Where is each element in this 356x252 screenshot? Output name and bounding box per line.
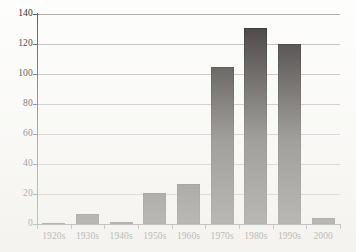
y-tick-label-20: 20 (3, 189, 33, 199)
y-tick-mark-80 (33, 104, 37, 105)
bar-slot (239, 14, 273, 224)
x-tick-mark (306, 225, 307, 229)
x-tick-mark (71, 225, 72, 229)
y-tick-label-80: 80 (3, 99, 33, 109)
x-tick-label-1920s: 1920s (42, 231, 65, 242)
x-axis-line (37, 224, 341, 225)
x-tick-label-1950s: 1950s (143, 231, 166, 242)
y-tick-mark-60 (33, 134, 37, 135)
bar-slot (306, 14, 340, 224)
bar-1920s[interactable] (42, 223, 65, 225)
x-tick-mark (205, 225, 206, 229)
bar-slot (104, 14, 138, 224)
y-tick-mark-20 (33, 194, 37, 195)
y-tick-mark-140 (33, 14, 37, 15)
x-tick-mark (239, 225, 240, 229)
x-tick-label-1960s: 1960s (177, 231, 200, 242)
y-tick-mark-0 (33, 224, 37, 225)
y-tick-label-40: 40 (3, 159, 33, 169)
bar-1960s[interactable] (177, 184, 200, 224)
bar-slot (172, 14, 206, 224)
bar-1950s[interactable] (143, 193, 166, 225)
x-tick-mark (172, 225, 173, 229)
x-tick-mark (340, 225, 341, 229)
y-tick-label-120: 120 (3, 39, 33, 49)
x-tick-mark (273, 225, 274, 229)
x-tick-label-1930s: 1930s (76, 231, 99, 242)
x-tick-mark (37, 225, 38, 229)
bar-1940s[interactable] (110, 222, 133, 224)
x-tick-label-1970s: 1970s (211, 231, 234, 242)
bar-1930s[interactable] (76, 214, 99, 225)
bar-2000[interactable] (312, 218, 335, 224)
y-tick-mark-100 (33, 74, 37, 75)
bar-slot (138, 14, 172, 224)
bar-slot (273, 14, 307, 224)
y-tick-label-0: 0 (3, 219, 33, 229)
x-tick-mark (104, 225, 105, 229)
bar-chart-figure: 020406080100120140 1920s1930s1940s1950s1… (0, 0, 356, 252)
y-tick-mark-40 (33, 164, 37, 165)
y-tick-mark-120 (33, 44, 37, 45)
x-tick-label-1980s: 1980s (244, 231, 267, 242)
bar-1970s[interactable] (211, 67, 234, 225)
x-tick-mark (138, 225, 139, 229)
x-tick-label-1940s: 1940s (110, 231, 133, 242)
bars-layer (37, 14, 340, 224)
bar-1990s[interactable] (278, 44, 301, 224)
y-tick-label-140: 140 (3, 9, 33, 19)
y-tick-label-100: 100 (3, 69, 33, 79)
bar-slot (37, 14, 71, 224)
y-axis: 020406080100120140 (0, 0, 33, 252)
bar-1980s[interactable] (244, 28, 267, 225)
x-tick-label-1990s: 1990s (278, 231, 301, 242)
bar-slot (205, 14, 239, 224)
x-tick-label-2000: 2000 (313, 231, 332, 242)
bar-slot (71, 14, 105, 224)
y-tick-label-60: 60 (3, 129, 33, 139)
